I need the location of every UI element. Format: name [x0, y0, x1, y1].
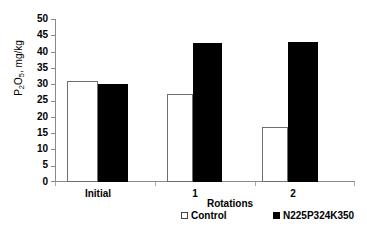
- bar-control-initial: [67, 81, 98, 182]
- chart-legend: Control N225P324K350: [55, 210, 355, 226]
- legend-swatch-filled-square-icon: [273, 212, 280, 219]
- legend-label-treated: N225P324K350: [283, 210, 354, 221]
- bar-treated-rotation-2: [288, 42, 318, 182]
- bar-control-rotation-1: [167, 94, 193, 182]
- legend-swatch-open-square-icon: [181, 212, 188, 219]
- bar-treated-rotation-1: [193, 43, 222, 182]
- x-axis-title: Rotations: [185, 198, 275, 210]
- legend-entry-treated: N225P324K350: [273, 210, 354, 221]
- legend-entry-control: Control: [181, 210, 227, 221]
- x-category-label-initial: Initial: [63, 188, 133, 200]
- legend-label-control: Control: [191, 210, 227, 221]
- bar-chart: P2O5, mg/kg 50 45 40 35 30 25 20 15 10 5…: [0, 0, 367, 231]
- bar-treated-initial: [98, 84, 128, 182]
- bar-control-rotation-2: [262, 127, 288, 183]
